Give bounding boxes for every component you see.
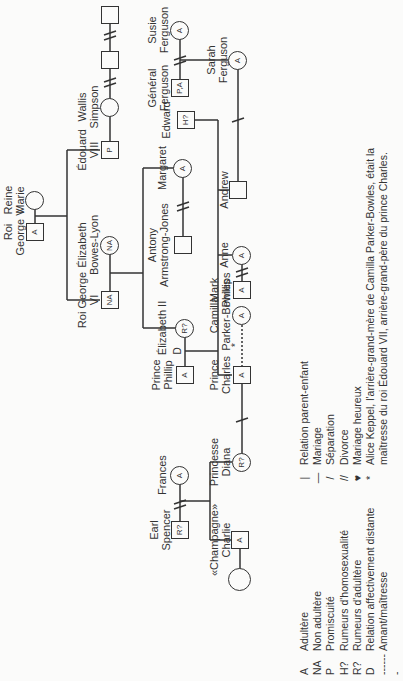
node-reine-marie [25, 191, 44, 210]
node-mark-phillips: A [233, 281, 251, 299]
label-edouard-viii: ÉdouardVIII [76, 129, 100, 171]
label-phillip: PrincePhillip [150, 359, 174, 390]
node-andrew [229, 181, 247, 199]
node-wallis [100, 98, 119, 117]
label-distant-relation: D [172, 347, 184, 354]
node-frances: A [170, 466, 189, 485]
legend-symbols: |Relation parent-enfant —Mariage /Sépara… [298, 148, 390, 491]
label-susie: SusieFerguson [146, 7, 170, 53]
node-phillip: A [176, 366, 194, 384]
node-armstrong-jones [174, 236, 192, 254]
label-diana: PrincesseDiana [208, 438, 232, 486]
label-frances: Frances [156, 455, 168, 495]
label-margaret: Margaret [156, 146, 168, 190]
node-george-v: A [26, 223, 44, 241]
label-general-ferguson: GénéralFerguson [146, 65, 170, 111]
node-george-vi: NA [101, 291, 119, 309]
node-camilla: A [232, 306, 251, 325]
label-reine-marie: ReineMarie [2, 186, 26, 215]
node-wallis-husband-1 [101, 51, 119, 69]
node-general-ferguson: P,A [171, 79, 189, 97]
node-margaret: A [173, 159, 192, 178]
label-anne: Anne [218, 242, 230, 268]
node-charles: A [233, 366, 251, 384]
label-champagne-charlie: «Champagne»Charlie [208, 504, 232, 576]
node-anne: A [232, 246, 251, 265]
legend-codes: AAdultère NANon adultère PPromiscuité H?… [298, 508, 403, 675]
label-wallis: WallisSimpson [76, 86, 100, 129]
node-susie: A [170, 21, 189, 40]
label-elizabeth-ii: Élizabeth II [156, 301, 168, 355]
label-armstrong-jones: AntonyArmstrong-Jones [146, 203, 170, 287]
node-diana: R? [232, 453, 251, 472]
label-earl-spencer: EarlSpencer [148, 510, 172, 551]
label-sarah: SarahFerguson [205, 37, 229, 83]
node-wallis-husband-2 [101, 6, 119, 24]
label-charles: PrinceCharles [208, 356, 232, 394]
node-bowes-lyon: NA [100, 236, 119, 255]
label-george-v: RoiGeorge V [2, 208, 26, 255]
label-george-vi: Roi GeorgeVI [76, 272, 100, 328]
label-keppel-asterisk: * [230, 343, 242, 347]
node-earl-spencer: R? [171, 521, 189, 539]
node-champagne-charlie: A [231, 531, 249, 549]
node-edouard-viii: P [101, 141, 119, 159]
node-elizabeth-ii: R? [175, 319, 194, 338]
label-mark-phillips: MarkPhillips [208, 273, 232, 308]
node-sarah: A [228, 51, 247, 70]
node-charlie-partner [228, 568, 251, 591]
label-bowes-lyon: ÉlizabethBowes-Lyon [76, 215, 100, 275]
node-edward: H? [177, 111, 195, 129]
